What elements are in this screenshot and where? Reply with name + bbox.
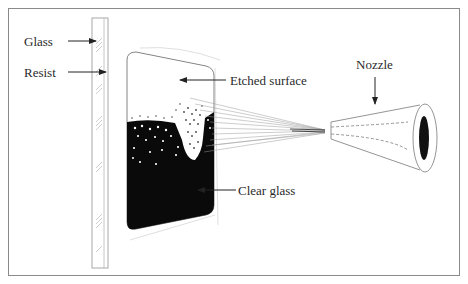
label-clear-glass: Clear glass [238,184,295,197]
sandblasting-diagram [0,0,468,284]
label-nozzle: Nozzle [356,58,393,71]
label-etched-surface: Etched surface [230,74,307,87]
glass-slab [92,18,108,268]
nozzle-orifice [419,116,429,160]
label-glass: Glass [24,35,53,48]
label-resist: Resist [24,66,56,79]
